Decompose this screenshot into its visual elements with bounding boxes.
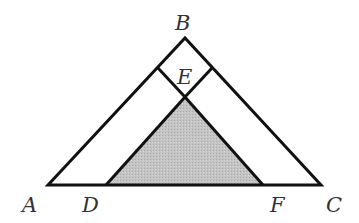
label-a: A bbox=[20, 193, 37, 217]
geometry-diagram: B E A D F C bbox=[0, 0, 359, 223]
label-f: F bbox=[269, 193, 286, 217]
label-c: C bbox=[326, 193, 342, 217]
label-d: D bbox=[81, 193, 99, 217]
label-b: B bbox=[174, 11, 190, 35]
shaded-triangle-def bbox=[106, 97, 263, 185]
label-e: E bbox=[176, 65, 192, 89]
